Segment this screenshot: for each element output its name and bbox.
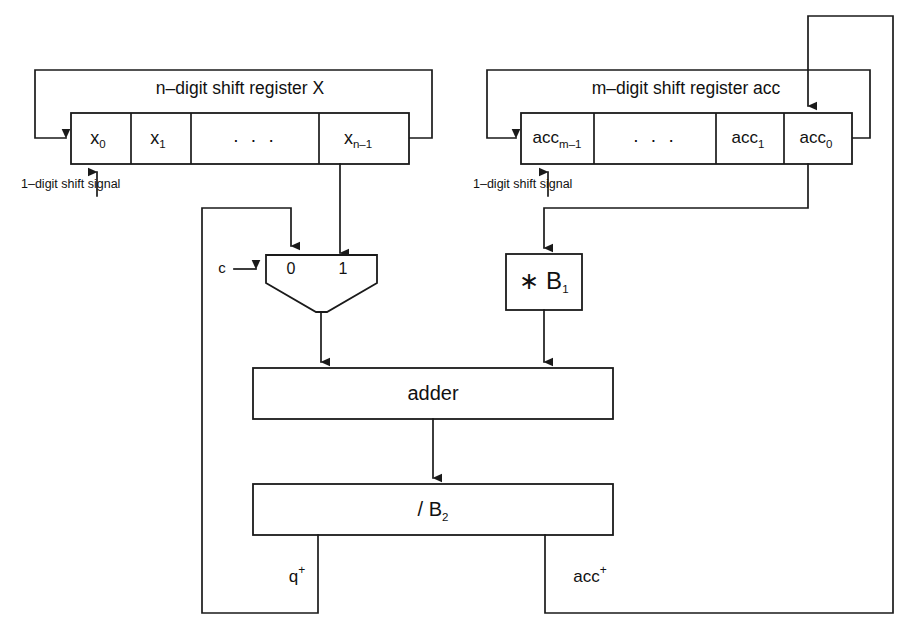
cell-acc-ellipsis-label: · · · <box>633 129 678 150</box>
multiplier-label: ∗ B1 <box>519 267 568 295</box>
acc-register-title: m–digit shift register acc <box>592 78 781 98</box>
x-shift-signal-label: 1–digit shift signal <box>21 177 120 191</box>
acc-shift-signal-label: 1–digit shift signal <box>473 177 572 191</box>
datapath-diagram: n–digit shift register X x0 x1 · · · xn–… <box>0 0 915 632</box>
divider-block-group: / B2 <box>253 484 613 535</box>
mux-select-label: c <box>218 259 226 276</box>
adder-label: adder <box>407 382 458 404</box>
mux-port-1-label: 1 <box>339 260 348 277</box>
mux-port-0-label: 0 <box>287 260 296 277</box>
x-register-title: n–digit shift register X <box>156 78 325 98</box>
block-diagram-canvas: n–digit shift register X x0 x1 · · · xn–… <box>0 0 915 632</box>
cell-x-ellipsis-label: · · · <box>233 129 278 150</box>
